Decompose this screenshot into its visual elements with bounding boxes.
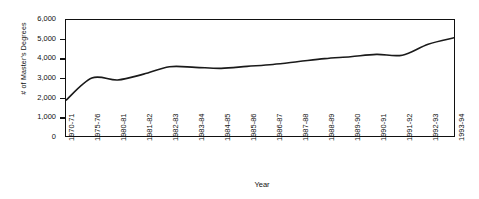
x-tick-label-1983-84: 1983-84 [198,95,206,141]
y-tick-label-0: 0 [22,133,56,141]
chart-figure: # of Master's Degrees 6,000 5,000 4,000 … [0,0,479,199]
x-tick-label-1985-86: 1985-86 [250,95,258,141]
x-tick-label-1993-94: 1993-94 [458,95,466,141]
x-tick-label-1975-76: 1975-76 [94,95,102,141]
y-tick-label-5000: 5,000 [22,35,56,43]
x-tick-label-1981-82: 1981-82 [146,95,154,141]
x-tick-label-1987-88: 1987-88 [302,95,310,141]
x-tick-label-1970-71: 1970-71 [68,95,76,141]
x-tick-label-1991-92: 1991-92 [406,95,414,141]
x-tick-label-1988-89: 1988-89 [328,95,336,141]
y-tick-label-3000: 3,000 [22,74,56,82]
x-tick-label-1980-81: 1980-81 [120,95,128,141]
y-tick-label-1000: 1,000 [22,113,56,121]
x-tick-label-1992-93: 1992-93 [432,95,440,141]
x-axis-title-wrap: Year [0,180,479,189]
x-axis-title: Year [254,180,269,189]
y-tick-label-4000: 4,000 [22,54,56,62]
y-tick-label-2000: 2,000 [22,94,56,102]
x-tick-label-1984-85: 1984-85 [224,95,232,141]
y-tick-label-6000: 6,000 [22,15,56,23]
x-tick-label-1986-87: 1986-87 [276,95,284,141]
x-tick-label-1982-83: 1982-83 [172,95,180,141]
series-line-masters-degrees [66,38,454,100]
x-tick-label-1989-90: 1989-90 [354,95,362,141]
x-tick-label-1990-91: 1990-91 [380,95,388,141]
